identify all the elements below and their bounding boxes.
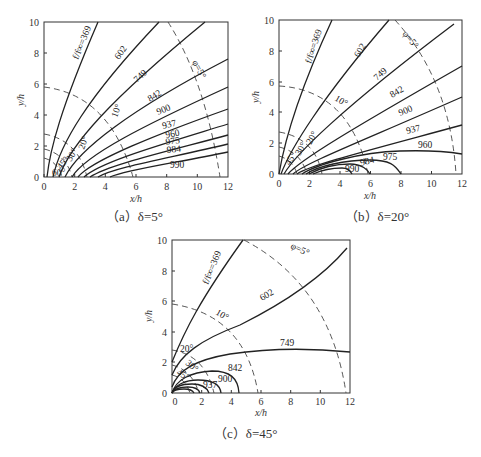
svg-text:749: 749: [372, 65, 389, 82]
svg-text:10: 10: [192, 181, 202, 192]
isolines: [172, 240, 346, 393]
panel-c: 0 2 4 6 8 10 12 0 2 4 6 8 10 x/h y/h: [143, 235, 355, 418]
svg-text:12: 12: [345, 396, 355, 407]
svg-text:602: 602: [258, 287, 276, 303]
svg-text:8: 8: [269, 46, 274, 57]
svg-text:20°: 20°: [304, 129, 319, 146]
curve-984: [98, 144, 228, 177]
svg-text:0: 0: [269, 169, 274, 180]
svg-text:984: 984: [166, 144, 181, 155]
svg-text:2: 2: [34, 141, 39, 152]
svg-text:4: 4: [103, 181, 108, 192]
svg-text:8: 8: [162, 266, 167, 277]
svg-text:0: 0: [42, 181, 47, 192]
curve-975: [172, 389, 194, 393]
svg-text:937: 937: [405, 123, 421, 136]
caption-panel-c: （c）δ=45°: [214, 423, 277, 442]
svg-text:602: 602: [352, 41, 368, 59]
contour-curves: [172, 240, 350, 393]
curve-602: [172, 248, 347, 375]
svg-text:10°: 10°: [333, 93, 350, 108]
svg-text:10: 10: [427, 178, 437, 189]
curve-369: [279, 20, 332, 174]
svg-text:937: 937: [203, 380, 218, 390]
x-axis-label: x/h: [363, 190, 376, 201]
svg-text:12: 12: [457, 178, 467, 189]
svg-text:6: 6: [134, 181, 139, 192]
svg-text:8: 8: [164, 181, 169, 192]
y-axis-label: y/h: [250, 91, 261, 104]
svg-text:f/f∞=369: f/f∞=369: [201, 249, 224, 286]
curve-labels: f/f∞=369 602 749 842 900 937 φ=5° 10° 20…: [175, 241, 311, 390]
panel-b: 0 2 4 6 8 10 12 0 2 4 6 8 10 x/h y/h: [250, 15, 467, 201]
svg-text:900: 900: [218, 374, 233, 384]
svg-text:4: 4: [162, 327, 167, 338]
svg-text:990: 990: [170, 160, 185, 170]
svg-text:6: 6: [269, 77, 274, 88]
svg-text:2: 2: [162, 357, 167, 368]
caption-panel-b: （b）δ=20°: [345, 206, 409, 225]
svg-text:10: 10: [315, 396, 325, 407]
svg-text:60°: 60°: [52, 168, 66, 178]
curve-842: [288, 66, 462, 174]
svg-text:0: 0: [34, 172, 39, 183]
svg-text:6: 6: [368, 178, 373, 189]
svg-text:749: 749: [280, 338, 295, 348]
svg-text:960: 960: [418, 140, 433, 150]
svg-text:900: 900: [397, 103, 414, 118]
figure-canvas: 0 2 4 6 8 10 12 0 2 4 6 8 10 x/h y/h: [0, 0, 481, 457]
x-axis-label: x/h: [129, 193, 142, 204]
svg-text:10: 10: [29, 17, 39, 28]
svg-text:φ=5°: φ=5°: [289, 241, 311, 258]
y-axis-label: y/h: [143, 310, 154, 323]
svg-text:8: 8: [34, 48, 39, 59]
svg-text:φ=5°: φ=5°: [190, 58, 208, 80]
svg-text:φ=5°: φ=5°: [400, 29, 420, 50]
caption-panel-a: （a）δ=5°: [106, 206, 163, 225]
svg-text:2: 2: [199, 396, 204, 407]
svg-text:842: 842: [146, 88, 164, 104]
plot-frame: [172, 240, 350, 393]
contour-curves: [279, 20, 462, 174]
isoline-5deg: [244, 240, 346, 393]
y-axis-label: y/h: [15, 94, 26, 107]
svg-text:0: 0: [162, 388, 167, 399]
svg-text:6: 6: [259, 396, 264, 407]
svg-text:4: 4: [338, 178, 343, 189]
svg-text:6: 6: [34, 79, 39, 90]
svg-text:990: 990: [345, 164, 360, 174]
svg-text:0: 0: [173, 396, 178, 407]
svg-text:4: 4: [269, 107, 274, 118]
panel-a: 0 2 4 6 8 10 12 0 2 4 6 8 10 x/h y/h: [15, 17, 233, 204]
svg-text:749: 749: [132, 67, 149, 84]
svg-text:4: 4: [34, 110, 39, 121]
svg-text:0: 0: [277, 178, 282, 189]
svg-text:984: 984: [359, 155, 376, 168]
svg-text:975: 975: [383, 152, 398, 162]
svg-text:2: 2: [307, 178, 312, 189]
svg-text:10°: 10°: [214, 307, 231, 322]
svg-text:10: 10: [264, 15, 274, 26]
svg-text:6: 6: [162, 296, 167, 307]
svg-text:20°: 20°: [180, 344, 194, 354]
svg-text:8: 8: [399, 178, 404, 189]
svg-text:10: 10: [157, 235, 167, 246]
svg-text:12: 12: [223, 181, 233, 192]
svg-text:842: 842: [228, 363, 243, 373]
svg-text:4: 4: [229, 396, 234, 407]
svg-text:2: 2: [269, 138, 274, 149]
x-axis-label: x/h: [254, 407, 267, 418]
svg-text:8: 8: [288, 396, 293, 407]
svg-text:842: 842: [388, 84, 406, 100]
svg-text:2: 2: [72, 181, 77, 192]
